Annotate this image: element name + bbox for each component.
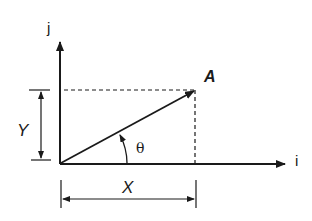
- vector-a-label: A: [203, 68, 216, 85]
- j-axis-label: j: [46, 19, 50, 36]
- angle-theta-arc: [120, 135, 127, 163]
- i-axis-label: i: [295, 152, 298, 169]
- vector-a-arrow: [61, 91, 194, 163]
- angle-theta-label: θ: [136, 140, 144, 156]
- y-component-label: Y: [17, 121, 30, 140]
- x-component-label: X: [121, 178, 134, 197]
- vector-components-diagram: j i A Y X θ: [0, 0, 312, 221]
